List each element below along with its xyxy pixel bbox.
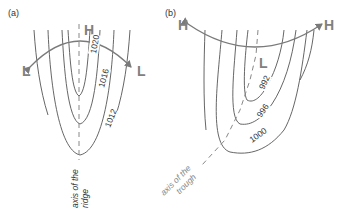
panel-b-label: (b) (165, 8, 176, 18)
isobar-outer-right (116, 30, 130, 115)
ridge-axis-label-line1: axis of the (70, 169, 80, 208)
isobar-label-1020: 1020 (88, 34, 101, 55)
isobar-label-996: 996 (254, 102, 270, 120)
high-label-b-left: H (178, 17, 188, 33)
isobar-outer-right-b (300, 30, 314, 80)
ridge-flow-arrow (30, 41, 131, 67)
isobar-outer-left-b (204, 30, 206, 130)
low-label-b: L (259, 55, 268, 71)
high-label-b-right: H (324, 17, 334, 33)
panel-b-trough: (b) H H L 992 996 1000 (158, 8, 334, 204)
low-label-a-left: L (22, 63, 31, 79)
isobar-outer-left (34, 30, 48, 115)
ridge-axis-label-line2: ridge (80, 189, 90, 208)
isobar-1012 (48, 30, 114, 155)
low-label-a-right: L (137, 63, 146, 79)
trough-axis-line (202, 30, 258, 165)
panel-a-ridge: (a) H L L 1020 1016 1012 (8, 8, 146, 208)
isobar-label-1016: 1016 (96, 67, 111, 88)
panel-a-label: (a) (8, 8, 19, 18)
trough-flow-arrow (188, 24, 322, 47)
ridge-trough-diagram: (a) H L L 1020 1016 1012 (0, 0, 343, 215)
